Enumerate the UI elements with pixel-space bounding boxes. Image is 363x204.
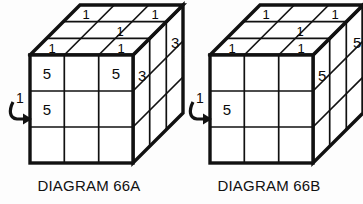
diagram-66a-right-cell-r1c3: 3 <box>171 34 179 51</box>
diagram-66a-front-cell-r1c1: 5 <box>43 65 51 82</box>
diagram-66b-front-cell-r2c1: 5 <box>223 101 231 118</box>
diagram-66a: 3 3 1 1 1 1 1 5 <box>10 5 183 194</box>
diagram-canvas: 3 3 1 1 1 1 1 5 <box>0 0 363 204</box>
cube-diagrams-svg: 3 3 1 1 1 1 1 5 <box>0 0 363 204</box>
diagram-66b-front-face: 5 <box>210 55 313 163</box>
diagram-66a-front-cell-r1c3: 5 <box>112 65 120 82</box>
diagram-66b-right-cell-r1c1: 5 <box>318 67 326 84</box>
diagram-66a-arrow-label: 1 <box>16 90 24 106</box>
diagram-66b-right-cell-r1c3: 5 <box>353 34 361 51</box>
diagram-66b-top-cell-r1c1: 1 <box>262 7 269 22</box>
diagram-66b-caption: DIAGRAM 66B <box>217 177 320 194</box>
diagram-66a-front-cell-r2c1: 5 <box>43 101 51 118</box>
diagram-66a-top-cell-r1c3: 1 <box>151 7 158 22</box>
diagram-66b: 5 5 1 1 1 1 1 5 <box>190 5 363 194</box>
diagram-66a-top-cell-r2c2: 1 <box>116 24 123 39</box>
diagram-66b-top-cell-r2c2: 1 <box>296 24 303 39</box>
diagram-66a-front-face: 5 5 5 <box>30 55 133 163</box>
diagram-66a-caption: DIAGRAM 66A <box>37 177 140 194</box>
diagram-66a-right-cell-r1c1: 3 <box>138 67 146 84</box>
diagram-66b-arrow-label: 1 <box>196 90 204 106</box>
diagram-66a-top-cell-r1c1: 1 <box>82 7 89 22</box>
diagram-66b-top-cell-r1c3: 1 <box>331 7 338 22</box>
